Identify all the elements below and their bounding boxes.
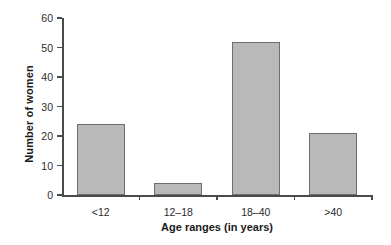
y-tick-label: 20 [41,130,53,142]
x-tick-mark [139,195,140,200]
x-tick-mark [371,195,372,200]
bar [232,42,280,195]
x-tick-label: <12 [92,206,110,218]
y-tick-mark [57,135,62,136]
y-tick-label: 0 [47,189,53,201]
y-tick-mark [57,76,62,77]
y-tick-label: 10 [41,160,53,172]
y-axis-title: Number of women [23,39,35,189]
x-tick-label: >40 [324,206,342,218]
y-tick-label: 40 [41,71,53,83]
y-tick-mark [57,17,62,18]
x-axis-title: Age ranges (in years) [62,221,372,233]
x-tick-label: 12–18 [164,206,193,218]
x-tick-mark [294,195,295,200]
plot-area: 0102030405060 <1212–1818–40>40 [62,18,372,195]
bar-chart-figure: Number of women 0102030405060 <1212–1818… [0,0,391,245]
y-tick-label: 50 [41,42,53,54]
bar [309,133,357,195]
y-tick-label: 60 [41,12,53,24]
x-tick-label: 18–40 [241,206,270,218]
y-tick-label: 30 [41,101,53,113]
bar [154,183,202,195]
y-tick-mark [57,106,62,107]
y-axis-line [62,18,64,195]
y-tick-mark [57,165,62,166]
x-tick-mark [216,195,217,200]
y-tick-mark [57,47,62,48]
y-tick-mark [57,194,62,195]
bar [77,124,125,195]
